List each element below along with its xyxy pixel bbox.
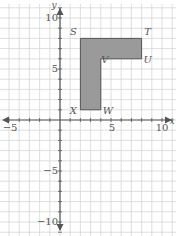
x-tick-label: −5 xyxy=(3,122,18,133)
y-tick-label: −10 xyxy=(37,216,58,227)
vertex-label-x: X xyxy=(69,105,78,116)
vertex-label-w: W xyxy=(103,105,114,116)
x-axis-name: x xyxy=(169,116,174,126)
vertex-label-s: S xyxy=(70,26,77,37)
vertex-label-u: U xyxy=(143,54,152,65)
coordinate-plane: −5510105−5−10xySTUVWX xyxy=(0,0,176,236)
y-axis-name: y xyxy=(50,0,57,10)
labels: −5510105−5−10xySTUVWX xyxy=(3,0,175,227)
y-tick-label: −5 xyxy=(43,165,58,176)
y-tick-label: 10 xyxy=(45,12,58,23)
x-tick-label: 10 xyxy=(156,122,169,133)
y-tick-label: 5 xyxy=(52,63,58,74)
x-tick-label: 5 xyxy=(109,122,115,133)
